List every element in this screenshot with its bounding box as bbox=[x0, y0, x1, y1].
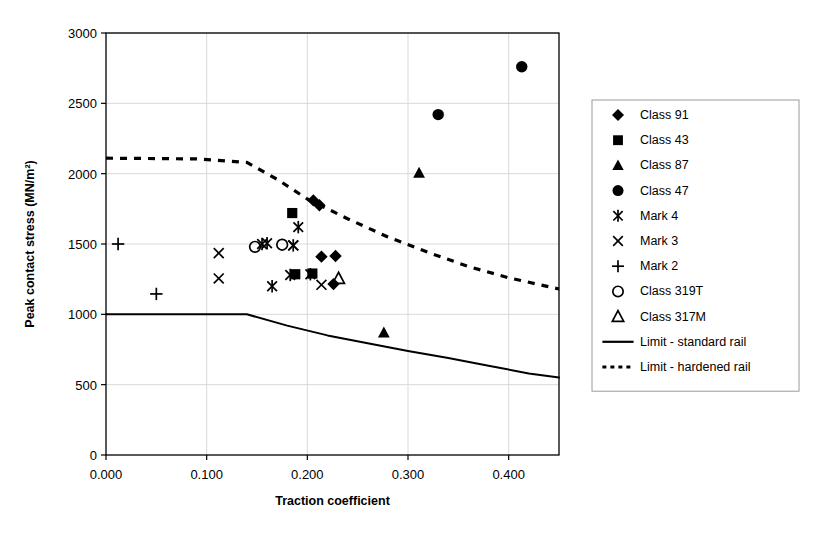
legend-item-label: Class 319T bbox=[640, 284, 704, 298]
y-axis-title: Peak contact stress (MN/m²) bbox=[23, 160, 37, 327]
legend-item-label: Mark 3 bbox=[640, 234, 678, 248]
data-point-class-43 bbox=[287, 208, 297, 218]
x-axis-title: Traction coefficient bbox=[275, 494, 390, 508]
y-axis-tick-label: 0 bbox=[90, 448, 97, 463]
data-point-class-47 bbox=[432, 109, 443, 120]
y-axis-tick-label: 500 bbox=[75, 378, 97, 393]
y-axis-tick-label: 2000 bbox=[68, 167, 97, 182]
data-point-class-47 bbox=[516, 61, 527, 72]
scatter-chart: 0500100015002000250030000.0000.1000.2000… bbox=[0, 0, 817, 533]
legend-item-label: Class 91 bbox=[640, 108, 689, 122]
x-axis-tick-label: 0.000 bbox=[90, 467, 123, 482]
legend-item-label: Mark 2 bbox=[640, 259, 678, 273]
legend-item-label: Class 47 bbox=[640, 184, 689, 198]
legend-item-label: Class 43 bbox=[640, 133, 689, 147]
legend-item-label: Mark 4 bbox=[640, 209, 678, 223]
legend-marker-square-filled bbox=[613, 135, 623, 145]
y-axis-tick-label: 2500 bbox=[68, 96, 97, 111]
legend-item-label: Limit - hardened rail bbox=[640, 360, 750, 374]
legend-item-label: Class 317M bbox=[640, 310, 706, 324]
x-axis-tick-label: 0.300 bbox=[392, 467, 425, 482]
x-axis-tick-label: 0.200 bbox=[291, 467, 324, 482]
y-axis-tick-label: 3000 bbox=[68, 26, 97, 41]
y-axis-tick-label: 1000 bbox=[68, 307, 97, 322]
legend-item-label: Limit - standard rail bbox=[640, 335, 746, 349]
chart-page: 0500100015002000250030000.0000.1000.2000… bbox=[0, 0, 817, 533]
x-axis-tick-label: 0.400 bbox=[492, 467, 525, 482]
y-axis-tick-label: 1500 bbox=[68, 237, 97, 252]
legend-item-label: Class 87 bbox=[640, 158, 689, 172]
x-axis-tick-label: 0.100 bbox=[190, 467, 223, 482]
legend-marker-circle-filled bbox=[612, 185, 623, 196]
